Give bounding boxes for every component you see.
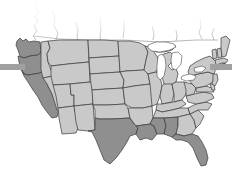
state-NE	[90, 72, 124, 90]
lake-huron	[171, 52, 182, 70]
us-choropleth-map	[0, 0, 232, 176]
state-NM	[74, 104, 95, 131]
state-MT	[47, 40, 89, 66]
states-layer	[16, 36, 230, 166]
canada-fade-overlay	[0, 0, 232, 44]
map-graphic-canvas	[0, 0, 232, 176]
state-NJ	[212, 74, 218, 86]
state-FL	[172, 134, 208, 166]
state-IN	[160, 84, 174, 104]
state-MN	[118, 41, 148, 72]
left-rule-bar	[0, 64, 25, 70]
state-ND	[88, 40, 119, 58]
state-OK	[93, 104, 130, 119]
state-TX	[88, 118, 138, 164]
right-rule-bar	[210, 64, 232, 70]
lake-erie	[181, 74, 196, 81]
state-ME	[221, 36, 230, 57]
state-SD	[89, 56, 120, 74]
lake-superior	[148, 42, 176, 52]
state-WY	[51, 62, 90, 85]
state-KS	[92, 88, 125, 105]
state-VT	[212, 49, 217, 59]
canada-layer	[0, 0, 232, 44]
